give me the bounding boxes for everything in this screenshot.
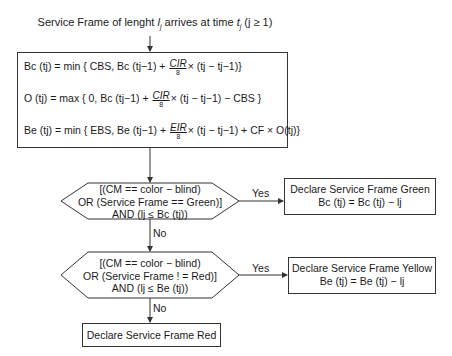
overflow-formula: O (tj) = max { 0, Bc (tj−1) + CIR8× (tj … (24, 91, 261, 108)
decision1-text: [(CM == color − blind) OR (Service Frame… (70, 183, 230, 221)
declare-yellow-box: Declare Service Frame Yellow Be (tj) = B… (288, 257, 436, 294)
yes-label-1: Yes (252, 187, 269, 199)
bc-update-formula: Bc (tj) = min { CBS, Bc (tj−1) + CIR8× (… (24, 59, 242, 76)
token-bucket-update-box: Bc (tj) = min { CBS, Bc (tj−1) + CIR8× (… (17, 52, 288, 148)
declare-red-box: Declare Service Frame Red (82, 323, 221, 347)
no-label-2: No (153, 302, 166, 314)
be-update-formula: Be (tj) = min { EBS, Be (tj−1) + EIR8× (… (24, 123, 300, 140)
flow-start-label: Service Frame of lenght lj arrives at ti… (0, 16, 310, 30)
yes-label-2: Yes (252, 262, 269, 274)
declare-green-box: Declare Service Frame Green Bc (tj) = Bc… (284, 178, 436, 215)
decision2-text: [(CM == color − blind) OR (Service Frame… (70, 257, 230, 295)
no-label-1: No (153, 227, 166, 239)
